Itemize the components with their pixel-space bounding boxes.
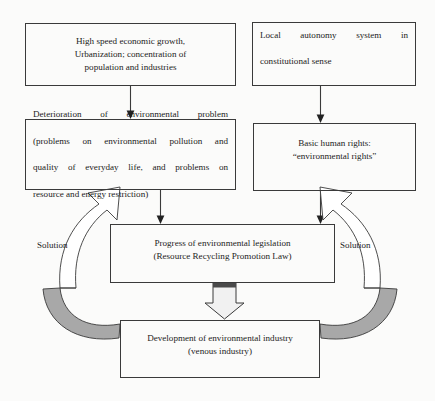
node-environmental-deterioration-line-3: quality of everyday life, and problems o… (33, 161, 228, 187)
node-environmental-industry-line-1: Development of environmental industry (128, 332, 312, 345)
node-economic-growth-line-2: Urbanization; concentration of (33, 48, 228, 61)
node-environmental-legislation: Progress of environmental legislation (R… (110, 224, 335, 283)
node-basic-human-rights-line-1: Basic human rights: (261, 137, 408, 150)
connector-industry-to-deterioration (43, 187, 120, 339)
diagram-canvas: High speed economic growth, Urbanization… (0, 0, 435, 401)
node-economic-growth-line-3: population and industries (33, 61, 228, 74)
node-environmental-legislation-line-2: (Resource Recycling Promotion Law) (118, 250, 327, 263)
node-local-autonomy-line-2: constitutional sense (260, 55, 408, 68)
node-basic-human-rights: Basic human rights: “environmental right… (253, 123, 416, 191)
node-environmental-legislation-line-1: Progress of environmental legislation (118, 237, 327, 250)
node-environmental-industry-line-2: (venous industry) (128, 345, 312, 358)
node-environmental-deterioration-line-2: (problems on environmental pollution and (33, 135, 228, 161)
node-economic-growth-line-1: High speed economic growth, (33, 35, 228, 48)
node-environmental-deterioration-line-1: Deterioration of environmental problem (33, 108, 228, 134)
node-economic-growth: High speed economic growth, Urbanization… (25, 23, 236, 86)
label-solution-left: Solution (37, 240, 68, 250)
node-basic-human-rights-line-2: “environmental rights” (261, 150, 408, 163)
label-solution-right: Solution (340, 240, 371, 250)
connector-rights-to-legislation (317, 191, 325, 224)
connector-legislation-to-industry (205, 283, 244, 319)
node-environmental-industry: Development of environmental industry (v… (120, 320, 320, 378)
connector-autonomy-to-rights (317, 86, 325, 123)
node-environmental-deterioration-line-4: resource and energy restriction) (33, 188, 228, 201)
node-local-autonomy-line-1: Local autonomy system in (260, 29, 408, 55)
node-local-autonomy: Local autonomy system in constitutional … (252, 22, 416, 86)
node-environmental-deterioration: Deterioration of environmental problem (… (25, 119, 236, 190)
